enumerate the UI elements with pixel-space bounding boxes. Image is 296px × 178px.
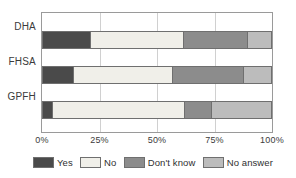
x-axis-tick-labels: 0%25%50%75%100% bbox=[42, 135, 272, 149]
bar-segment-fhsa-no bbox=[73, 67, 172, 83]
bar-segment-gpfh-no bbox=[52, 102, 184, 118]
bar-segment-dha-no-answer bbox=[247, 32, 271, 48]
legend-swatch-no-answer bbox=[203, 157, 224, 168]
legend-label: Don't know bbox=[148, 157, 196, 168]
bar-segment-fhsa-don-t-know bbox=[172, 67, 243, 83]
bar-segment-gpfh-yes bbox=[43, 102, 52, 118]
bar-segment-gpfh-no-answer bbox=[211, 102, 271, 118]
bar-dha bbox=[42, 31, 272, 49]
legend-item-no: No bbox=[80, 157, 116, 168]
legend-swatch-no bbox=[80, 157, 101, 168]
legend-item-yes: Yes bbox=[33, 157, 73, 168]
bar-segment-dha-no bbox=[90, 32, 183, 48]
x-tick-label-25: 25% bbox=[90, 135, 109, 145]
bar-segment-fhsa-yes bbox=[43, 67, 73, 83]
y-axis-label-dha: DHA bbox=[0, 18, 36, 36]
x-tick-label-100: 100% bbox=[260, 135, 284, 145]
x-tick-label-50: 50% bbox=[148, 135, 167, 145]
x-tick-label-0: 0% bbox=[35, 135, 48, 145]
legend-swatch-don-t-know bbox=[124, 157, 145, 168]
bar-segment-dha-don-t-know bbox=[183, 32, 247, 48]
bar-segment-dha-yes bbox=[43, 32, 90, 48]
legend-label: Yes bbox=[57, 157, 73, 168]
legend-label: No bbox=[104, 157, 116, 168]
legend: YesNoDon't knowNo answer bbox=[33, 155, 273, 169]
bar-segment-gpfh-don-t-know bbox=[184, 102, 210, 118]
legend-item-no-answer: No answer bbox=[203, 157, 273, 168]
bar-gpfh bbox=[42, 101, 272, 119]
x-tick-label-75: 75% bbox=[205, 135, 224, 145]
legend-item-don-t-know: Don't know bbox=[124, 157, 196, 168]
stacked-bar-chart: DHA FHSA GPFH 0%25%50%75%100% YesNoDon't… bbox=[0, 0, 296, 178]
legend-label: No answer bbox=[227, 157, 273, 168]
legend-swatch-yes bbox=[33, 157, 54, 168]
y-axis-label-gpfh: GPFH bbox=[0, 88, 36, 106]
bar-segment-fhsa-no-answer bbox=[243, 67, 272, 83]
y-axis-label-fhsa: FHSA bbox=[0, 53, 36, 71]
bar-fhsa bbox=[42, 66, 272, 84]
plot-area: 0%25%50%75%100% bbox=[41, 12, 273, 133]
